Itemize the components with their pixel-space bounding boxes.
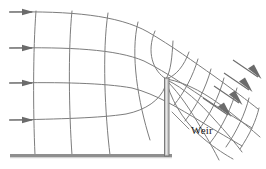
inflow-arrow-4 [9, 117, 34, 123]
equipotential-4 [135, 22, 150, 140]
inflow-arrow-1 [9, 9, 34, 15]
flow-net-canvas: Weir [0, 0, 266, 169]
channel-bed-group [10, 156, 172, 158]
inflow-arrow-2 [9, 45, 34, 51]
downstream-streamline-group [167, 79, 260, 160]
weir-label: Weir [191, 124, 213, 136]
inflow-arrow-group [9, 9, 34, 123]
weir-leader-line [172, 112, 189, 129]
streamline-group [10, 12, 258, 159]
weir-label-group: Weir [172, 112, 213, 136]
equipotential-3 [105, 13, 110, 155]
flow-net-figure: Weir [0, 0, 266, 169]
outflow-arrow-4 [203, 98, 232, 117]
equipotential-9 [185, 69, 211, 121]
outflow-arrow-1 [233, 60, 262, 79]
weir-group [165, 78, 170, 156]
inflow-arrow-3 [9, 80, 34, 86]
downstream-streamline-3 [167, 81, 219, 160]
outflow-arrow-2 [224, 73, 253, 92]
streamline-free-surface [10, 12, 258, 109]
